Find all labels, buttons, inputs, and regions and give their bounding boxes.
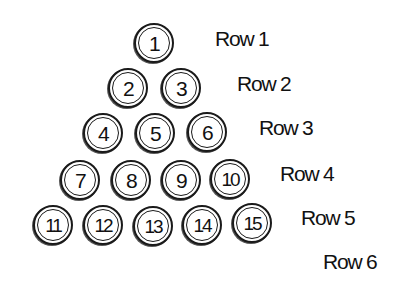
ball-11: 11	[33, 205, 73, 245]
ball-10: 10	[210, 159, 250, 199]
ball-4: 4	[83, 113, 123, 153]
ball-5: 5	[135, 113, 175, 153]
ball-3: 3	[161, 68, 201, 108]
ball-9: 9	[161, 160, 201, 200]
row-6-label: Row 6	[323, 251, 377, 272]
ball-7: 7	[60, 160, 100, 200]
ball-13: 13	[133, 206, 173, 246]
ball-12: 12	[83, 205, 123, 245]
row-4-label: Row 4	[280, 163, 334, 184]
ball-8: 8	[111, 160, 151, 200]
ball-2: 2	[108, 68, 148, 108]
row-1-label: Row 1	[215, 28, 269, 49]
ball-6: 6	[187, 112, 227, 152]
row-3-label: Row 3	[259, 117, 313, 138]
row-5-label: Row 5	[301, 207, 355, 228]
ball-triangle-diagram: 1 2 3 4 5 6 7 8 9 10 11 12 13 14 15 Row …	[0, 0, 405, 290]
row-2-label: Row 2	[237, 73, 291, 94]
ball-14: 14	[182, 205, 222, 245]
ball-15: 15	[232, 203, 272, 243]
ball-1: 1	[134, 23, 174, 63]
